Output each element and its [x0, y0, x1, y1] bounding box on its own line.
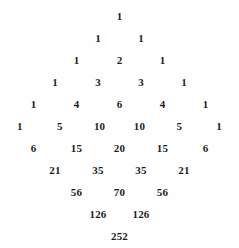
triangle-value: 3: [77, 74, 120, 90]
triangle-value: 1: [163, 74, 206, 90]
triangle-value: 5: [159, 118, 199, 134]
triangle-value: 1: [12, 96, 55, 112]
triangle-value: 56: [55, 184, 98, 200]
triangle-value: 10: [120, 118, 160, 134]
triangle-value: 1: [184, 96, 227, 112]
triangle-value: 10: [80, 118, 120, 134]
triangle-row: 61520156: [0, 140, 239, 156]
triangle-value: 1: [34, 74, 77, 90]
triangle-value: 3: [120, 74, 163, 90]
triangle-value: 15: [141, 140, 184, 156]
triangle-row: 1: [0, 8, 239, 24]
pascal-triangle-figure: 1111211331146411510105161520156213535215…: [0, 0, 239, 248]
triangle-row: 14641: [0, 96, 239, 112]
triangle-value: 6: [98, 96, 141, 112]
triangle-value: 5: [40, 118, 80, 134]
triangle-row: 15101051: [0, 118, 239, 134]
triangle-row: 21353521: [0, 162, 239, 178]
triangle-value: 1: [98, 8, 141, 24]
triangle-row: 11: [0, 30, 239, 46]
triangle-value: 252: [98, 228, 141, 244]
triangle-value: 20: [98, 140, 141, 156]
triangle-value: 1: [55, 52, 98, 68]
triangle-value: 126: [120, 206, 163, 222]
triangle-value: 70: [98, 184, 141, 200]
triangle-value: 1: [199, 118, 239, 134]
triangle-value: 4: [55, 96, 98, 112]
triangle-value: 4: [141, 96, 184, 112]
triangle-value: 1: [141, 52, 184, 68]
triangle-row: 1331: [0, 74, 239, 90]
triangle-row: 252: [0, 228, 239, 244]
triangle-row: 567056: [0, 184, 239, 200]
triangle-value: 126: [77, 206, 120, 222]
triangle-value: 2: [98, 52, 141, 68]
triangle-value: 15: [55, 140, 98, 156]
triangle-value: 21: [34, 162, 77, 178]
triangle-row: 126126: [0, 206, 239, 222]
triangle-value: 6: [12, 140, 55, 156]
triangle-row: 121: [0, 52, 239, 68]
triangle-value: 1: [0, 118, 40, 134]
triangle-value: 21: [163, 162, 206, 178]
triangle-value: 56: [141, 184, 184, 200]
triangle-value: 35: [77, 162, 120, 178]
triangle-value: 6: [184, 140, 227, 156]
triangle-value: 1: [120, 30, 163, 46]
triangle-value: 35: [120, 162, 163, 178]
triangle-value: 1: [77, 30, 120, 46]
